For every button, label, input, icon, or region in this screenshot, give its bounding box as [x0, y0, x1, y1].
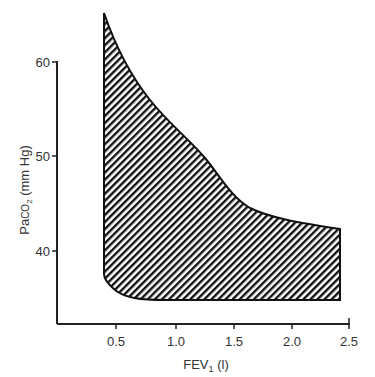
y-tick-label-50: 50: [36, 149, 50, 164]
y-tick-label-40: 40: [36, 244, 50, 259]
chart-canvas: 60 50 40 0.5 1.0 1.5 2.0 2.5 FEV1 (l) Pa…: [0, 0, 375, 377]
x-axis-title: FEV1 (l): [183, 357, 228, 374]
x-tick-label-2.0: 2.0: [283, 334, 301, 349]
x-tick-label-2.5: 2.5: [340, 334, 358, 349]
x-tick-label-0.5: 0.5: [107, 334, 125, 349]
hatched-region: [104, 13, 340, 300]
x-tick-label-1.0: 1.0: [167, 334, 185, 349]
x-tick-label-1.5: 1.5: [225, 334, 243, 349]
y-axis-title: PaCO2 (mm Hg): [17, 145, 34, 235]
y-tick-label-60: 60: [36, 55, 50, 70]
